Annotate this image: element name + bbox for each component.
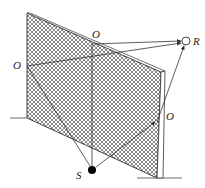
diagram: R S O O O [0,0,205,188]
ray-top-o-to-r [92,41,181,44]
source-point [88,166,96,174]
receiver-point [182,37,190,45]
label-receiver: R [192,35,200,47]
label-reflection-right: O [166,110,174,122]
label-reflection-left: O [13,59,21,71]
label-reflection-top: O [92,28,100,40]
label-source: S [76,169,82,181]
diagram-canvas: R S O O O [0,0,205,188]
